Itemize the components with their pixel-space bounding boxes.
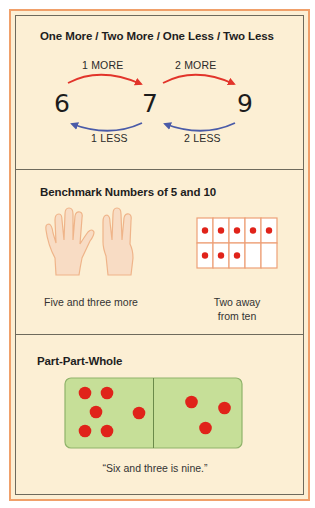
label-2-more: 2 MORE <box>175 59 216 71</box>
caption-six-and-three: “Six and three is nine.” <box>60 461 250 475</box>
section-title-benchmark-numbers: Benchmark Numbers of 5 and 10 <box>40 186 216 198</box>
number-six: 6 <box>54 91 70 116</box>
caption-two-away: Two away from ten <box>197 295 277 323</box>
section-title-one-more-two-more: One More / Two More / One Less / Two Les… <box>40 30 274 42</box>
caption-two-away-line1: Two away <box>197 295 277 309</box>
label-1-less: 1 LESS <box>91 132 128 144</box>
section-title-part-part-whole: Part-Part-Whole <box>37 355 122 367</box>
section-divider <box>15 169 304 170</box>
section-divider <box>15 334 304 335</box>
number-seven: 7 <box>142 91 158 116</box>
number-nine: 9 <box>237 91 253 116</box>
caption-two-away-line2: from ten <box>197 309 277 323</box>
label-1-more: 1 MORE <box>82 59 123 71</box>
label-2-less: 2 LESS <box>184 132 221 144</box>
card-inner-frame <box>15 15 304 495</box>
caption-five-and-three-more: Five and three more <box>44 295 154 309</box>
